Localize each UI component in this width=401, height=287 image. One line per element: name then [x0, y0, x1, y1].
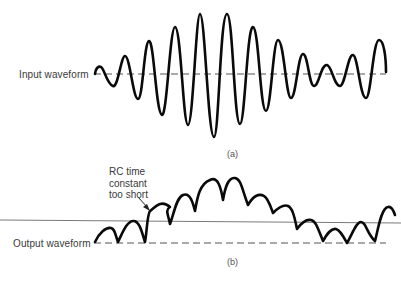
annotation-line-1: RC time: [109, 166, 148, 178]
reference-line: [0, 220, 401, 223]
annotation-line-3: too short: [109, 189, 148, 201]
annotation-line-2: constant: [109, 178, 148, 190]
rc-time-constant-annotation: RC time constant too short: [109, 166, 148, 201]
annotation-arrow-head: [143, 204, 150, 211]
input-waveform-curve: [95, 14, 386, 137]
panel-b-caption: (b): [227, 257, 238, 267]
panel-a-caption: (a): [227, 149, 238, 159]
input-waveform-label: Input waveform: [19, 69, 89, 80]
output-waveform-label: Output waveform: [13, 238, 91, 249]
